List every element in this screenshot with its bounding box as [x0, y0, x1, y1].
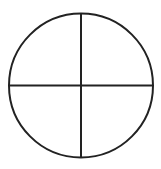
quadrant-circle-diagram	[0, 0, 161, 169]
